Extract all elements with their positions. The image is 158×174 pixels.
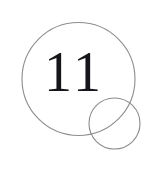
figure-canvas: 11 (0, 0, 158, 174)
figure-number-label: 11 (44, 41, 104, 103)
figure-container: 11 (0, 0, 158, 174)
